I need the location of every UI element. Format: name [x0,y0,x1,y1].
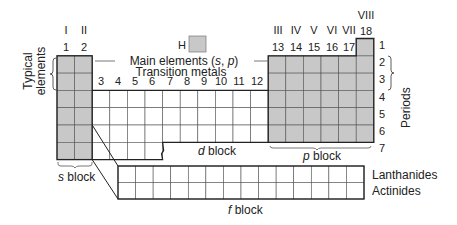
roman-group-2: II [81,24,87,36]
actinide-cell [294,183,312,200]
lanthanide-cell [118,166,136,183]
period-number-1: 1 [379,39,385,51]
s-block-cell [75,125,93,142]
actinides-label: Actinides [372,184,421,198]
s-block-cell [75,142,93,159]
d-block-cell [110,108,128,125]
d-block-cell [233,90,251,107]
hydrogen-cell [189,36,206,52]
d-block-cell [198,90,216,107]
lanthanide-cell [311,166,329,183]
group-number-1: 1 [63,41,69,53]
d-block-cell [92,90,110,107]
p-block-cell [321,108,339,125]
actinide-cell [136,183,154,200]
d-block-cell [251,108,269,125]
d-block-cell [198,108,216,125]
group-number-14: 14 [290,41,302,53]
periods-label: Periods [399,87,413,128]
p-block-cell [321,125,339,142]
group-number-15: 15 [308,41,320,53]
p-block-cell [303,125,321,142]
s-block-cell [75,73,93,90]
d-block-cell [251,125,269,142]
d-block-cell [233,125,251,142]
group-number-18: 18 [360,25,372,37]
d-block-cell [110,90,128,107]
d-block-cell [215,90,233,107]
actinide-cell [223,183,241,200]
s-block-cell [57,108,75,125]
p-block-cell [268,56,286,73]
period-number-7: 7 [379,142,385,154]
lanthanide-cell [171,166,189,183]
p-block-cell [356,39,374,56]
p-block-cell [286,56,304,73]
s-block-cell [75,108,93,125]
s-block-cell [57,125,75,142]
lanthanide-cell [188,166,206,183]
s-block-brace [58,162,92,168]
s-block-cell [57,56,75,73]
roman-group-18: VIII [358,9,375,21]
p-block-cell [356,90,374,107]
d-block-cell [92,108,110,125]
d-block-cell [163,108,181,125]
p-block-cell [339,56,357,73]
roman-group-16: VI [327,24,337,36]
f-block-connector-bottom [92,160,118,199]
p-block-cell [268,125,286,142]
d-block-cell [233,108,251,125]
actinide-cell [206,183,224,200]
p-block-cell [268,90,286,107]
d-block-cell [92,142,110,159]
s-block-cell [75,56,93,73]
p-block-cell [286,90,304,107]
d-block-cell [145,142,163,159]
period-number-2: 2 [379,56,385,68]
d-block-cell [180,90,198,107]
actinide-cell [171,183,189,200]
p-block-cell [321,73,339,90]
p-block-cell [303,90,321,107]
period-number-5: 5 [379,108,385,120]
p-block-cell [286,73,304,90]
d-block-cell [127,90,145,107]
p-block-cell [303,56,321,73]
p-block-cell [286,125,304,142]
s-block-cell [57,90,75,107]
p-block-cell [339,125,357,142]
actinide-cell [153,183,171,200]
lanthanide-cell [276,166,294,183]
group-number-17: 17 [343,41,355,53]
p-block-cell [339,108,357,125]
d-block-cell [180,108,198,125]
actinide-cell [346,183,364,200]
actinide-cell [188,183,206,200]
s-block-cell [57,142,75,159]
p-block-cell [356,73,374,90]
p-block-cell [356,108,374,125]
p-block-cell [321,90,339,107]
d-block-cell [110,125,128,142]
transition-metals-label: Transition metals [136,65,227,79]
typical-elements-label-line2: elements [34,47,48,96]
p-block-cell [321,56,339,73]
actinide-cell [259,183,277,200]
p-block-label: p block [302,149,342,163]
period-number-3: 3 [379,73,385,85]
roman-group-15: V [310,24,318,36]
periodic-table-diagram: I II III IV V VI VII VIII 1 2 3 4 5 6 7 … [0,0,457,225]
lanthanide-cell [346,166,364,183]
group-number-13: 13 [272,41,284,53]
lanthanide-cell [241,166,259,183]
d-block-cell [251,90,269,107]
d-block-cell [127,142,145,159]
d-block-cell [180,125,198,142]
p-block-cell [356,56,374,73]
actinide-cell [241,183,259,200]
p-block-cell [268,73,286,90]
hydrogen-label: H [178,39,186,51]
p-block-cell [286,108,304,125]
d-block-cell [127,125,145,142]
